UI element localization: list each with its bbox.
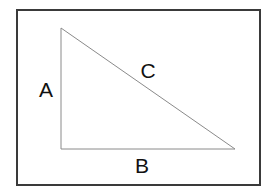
- side-a-label: A: [39, 78, 53, 101]
- triangle-diagram: A B C: [0, 0, 267, 195]
- side-c-label: C: [140, 59, 155, 82]
- side-b-label: B: [135, 154, 149, 177]
